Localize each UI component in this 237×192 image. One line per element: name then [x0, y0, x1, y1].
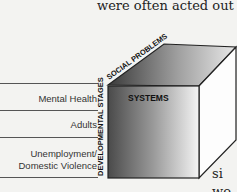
cube-side-label: DEVELOPMENTAL STAGES	[96, 77, 105, 176]
cube-front-label: SYSTEMS	[128, 93, 169, 103]
cube-diagram: SYSTEMS SOCIAL PROBLEMS DEVELOPMENTAL ST…	[0, 0, 237, 192]
